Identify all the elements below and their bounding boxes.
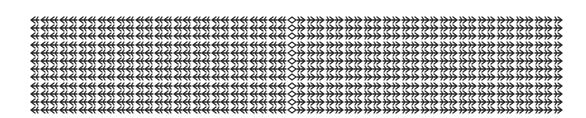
- arrow-right-icon: [439, 58, 449, 66]
- arrow-right-icon: [296, 25, 306, 33]
- arrow-right-icon: [467, 58, 477, 66]
- arrow-right-icon: [391, 99, 401, 107]
- arrow-right-icon: [315, 83, 325, 91]
- diamond-icon: [287, 9, 297, 17]
- arrow-left-icon: [49, 34, 59, 42]
- arrow-left-icon: [268, 34, 278, 42]
- arrow-right-icon: [543, 75, 553, 83]
- arrow-left-icon: [258, 9, 268, 17]
- arrow-left-icon: [59, 83, 69, 91]
- arrow-right-icon: [363, 9, 373, 17]
- arrow-right-icon: [515, 9, 525, 17]
- arrow-left-icon: [163, 17, 173, 25]
- arrow-left-icon: [230, 25, 240, 33]
- arrow-left-icon: [49, 91, 59, 99]
- arrow-left-icon: [144, 9, 154, 17]
- arrow-right-icon: [515, 34, 525, 42]
- arrow-right-icon: [534, 99, 544, 107]
- arrow-left-icon: [258, 83, 268, 91]
- arrow-left-icon: [116, 42, 126, 50]
- arrow-left-icon: [211, 34, 221, 42]
- diamond-icon: [287, 66, 297, 74]
- arrow-left-icon: [258, 99, 268, 107]
- arrow-left-icon: [144, 83, 154, 91]
- arrow-left-icon: [87, 83, 97, 91]
- arrow-right-icon: [306, 42, 316, 50]
- arrow-right-icon: [401, 99, 411, 107]
- arrow-left-icon: [154, 9, 164, 17]
- arrow-right-icon: [306, 83, 316, 91]
- arrow-right-icon: [477, 9, 487, 17]
- arrow-left-icon: [277, 99, 287, 107]
- arrow-right-icon: [486, 25, 496, 33]
- arrow-right-icon: [477, 25, 487, 33]
- arrow-left-icon: [97, 25, 107, 33]
- diamond-icon: [287, 17, 297, 25]
- arrow-left-icon: [40, 25, 50, 33]
- arrow-right-icon: [486, 83, 496, 91]
- arrow-right-icon: [344, 42, 354, 50]
- arrow-left-icon: [106, 9, 116, 17]
- arrow-right-icon: [344, 34, 354, 42]
- arrow-right-icon: [344, 99, 354, 107]
- arrow-left-icon: [135, 91, 145, 99]
- arrow-right-icon: [420, 50, 430, 58]
- arrow-right-icon: [543, 42, 553, 50]
- arrow-left-icon: [163, 50, 173, 58]
- arrow-left-icon: [78, 42, 88, 50]
- arrow-right-icon: [363, 17, 373, 25]
- arrow-right-icon: [543, 58, 553, 66]
- arrow-right-icon: [382, 99, 392, 107]
- arrow-right-icon: [372, 99, 382, 107]
- arrow-right-icon: [505, 50, 515, 58]
- arrow-left-icon: [144, 66, 154, 74]
- arrow-left-icon: [268, 25, 278, 33]
- arrow-left-icon: [163, 75, 173, 83]
- arrow-left-icon: [182, 17, 192, 25]
- arrow-left-icon: [163, 91, 173, 99]
- arrow-left-icon: [201, 83, 211, 91]
- arrow-left-icon: [78, 91, 88, 99]
- arrow-right-icon: [458, 34, 468, 42]
- arrow-left-icon: [192, 42, 202, 50]
- arrow-left-icon: [40, 50, 50, 58]
- arrow-left-icon: [59, 42, 69, 50]
- arrow-left-icon: [277, 75, 287, 83]
- arrow-right-icon: [553, 42, 563, 50]
- arrow-left-icon: [59, 50, 69, 58]
- arrow-right-icon: [429, 75, 439, 83]
- arrow-right-icon: [524, 42, 534, 50]
- arrow-right-icon: [334, 50, 344, 58]
- arrow-left-icon: [116, 66, 126, 74]
- arrow-left-icon: [277, 50, 287, 58]
- arrow-left-icon: [239, 83, 249, 91]
- arrow-left-icon: [68, 58, 78, 66]
- arrow-left-icon: [201, 17, 211, 25]
- arrow-left-icon: [144, 25, 154, 33]
- arrow-left-icon: [163, 34, 173, 42]
- arrow-left-icon: [192, 34, 202, 42]
- arrow-left-icon: [49, 42, 59, 50]
- arrow-right-icon: [420, 99, 430, 107]
- arrow-left-icon: [220, 50, 230, 58]
- arrow-right-icon: [429, 83, 439, 91]
- arrow-left-icon: [78, 99, 88, 107]
- arrow-left-icon: [220, 25, 230, 33]
- arrow-right-icon: [439, 75, 449, 83]
- arrow-right-icon: [334, 17, 344, 25]
- arrow-left-icon: [87, 75, 97, 83]
- arrow-right-icon: [439, 83, 449, 91]
- arrow-left-icon: [125, 83, 135, 91]
- arrow-left-icon: [87, 17, 97, 25]
- arrow-left-icon: [230, 99, 240, 107]
- arrow-right-icon: [296, 83, 306, 91]
- arrow-left-icon: [220, 58, 230, 66]
- arrow-right-icon: [315, 99, 325, 107]
- arrow-left-icon: [277, 66, 287, 74]
- arrow-right-icon: [439, 66, 449, 74]
- arrow-left-icon: [258, 25, 268, 33]
- arrow-left-icon: [211, 9, 221, 17]
- arrow-left-icon: [135, 66, 145, 74]
- arrow-right-icon: [458, 50, 468, 58]
- arrow-right-icon: [543, 9, 553, 17]
